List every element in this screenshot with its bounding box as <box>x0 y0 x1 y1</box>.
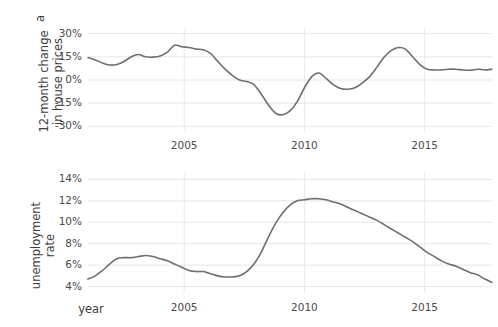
y-tick-label: -30% <box>55 119 82 131</box>
x-tick-label: 2005 <box>154 139 214 151</box>
y-tick-label: 10% <box>59 215 82 227</box>
x-tick-label: 2015 <box>395 139 455 151</box>
y-tick-label: -15% <box>55 96 82 108</box>
y-tick-label: 4% <box>65 280 82 292</box>
x-axis-title: year <box>78 302 104 316</box>
y-tick-label: 8% <box>65 237 82 249</box>
y-tick-label: 6% <box>65 258 82 270</box>
x-tick-label: 2010 <box>274 139 334 151</box>
x-axis-title-wrap: year <box>0 302 498 316</box>
figure-container: 12-month change in house prices a 30%15%… <box>0 0 498 327</box>
y-tick-label: 30% <box>59 27 82 39</box>
y-tick-label: 12% <box>59 194 82 206</box>
panel-a-house-prices: 12-month change in house prices a 30%15%… <box>0 0 498 163</box>
data-line-b <box>88 199 492 283</box>
y-tick-label: 15% <box>59 50 82 62</box>
y-tick-label: 0% <box>65 73 82 85</box>
y-tick-label: 14% <box>59 172 82 184</box>
